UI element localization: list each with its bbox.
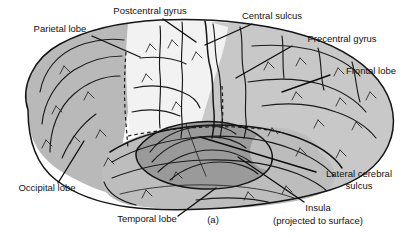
label-insula-line1: Insula [305,202,331,213]
label-insula-line2: (projected to surface) [273,215,363,226]
label-postcentral-gyrus: Postcentral gyrus [113,5,187,16]
label-frontal-lobe: Frontal lobe [346,65,396,76]
label-temporal-lobe: Temporal lobe [117,213,177,224]
label-central-sulcus: Central sulcus [242,10,302,21]
brain-regions [26,19,394,209]
figure-caption: (a) [207,214,219,225]
label-lateral-cerebral-sulcus-line1: Lateral cerebral [326,168,392,179]
label-occipital-lobe: Occipital lobe [18,182,75,193]
brain-diagram-svg: Parietal lobe Postcentral gyrus Central … [0,0,411,238]
label-parietal-lobe: Parietal lobe [34,23,87,34]
brain-lateral-view-figure: Parietal lobe Postcentral gyrus Central … [0,0,411,238]
label-lateral-cerebral-sulcus-line2: sulcus [346,180,373,191]
label-precentral-gyrus: Precentral gyrus [307,33,376,44]
